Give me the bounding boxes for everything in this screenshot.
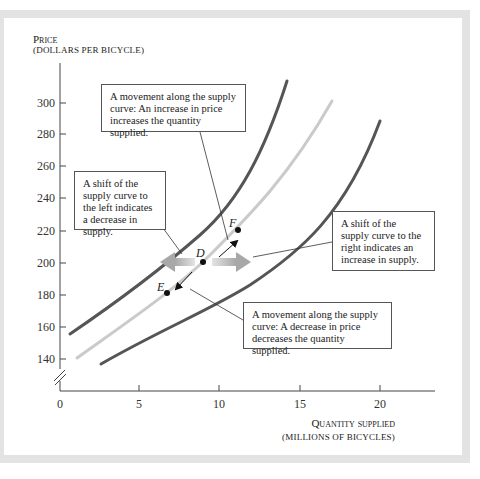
x-tick-label: 5 — [136, 397, 142, 411]
y-axis-label: Price — [33, 33, 144, 45]
leader-top — [200, 132, 228, 240]
x-ticks: 0 5 10 15 20 — [57, 385, 386, 411]
y-tick-label: 280 — [37, 127, 55, 141]
y-tick-label: 260 — [37, 159, 55, 173]
y-tick-label: 180 — [37, 288, 55, 302]
movement-down-arrow-icon — [176, 272, 192, 289]
callout-decrease-supply: A shift of the supply curve to the left … — [74, 171, 166, 230]
y-tick-label: 300 — [37, 96, 55, 110]
callout-decrease-price: A movement along the supply curve: A dec… — [243, 302, 392, 349]
x-axis-title: Quantity supplied (MILLIONS OF BICYCLES) — [282, 417, 395, 442]
x-tick-label: 20 — [374, 397, 386, 411]
point-label-e: E — [156, 280, 165, 294]
y-ticks: 300 280 260 240 220 200 180 160 140 — [37, 96, 66, 366]
x-axis-label: Quantity supplied — [282, 417, 395, 429]
point-e — [164, 290, 170, 296]
x-tick-label: 0 — [57, 397, 63, 411]
y-tick-label: 200 — [37, 256, 55, 270]
callout-increase-supply: A shift of the supply curve to the right… — [332, 211, 435, 271]
callout-increase-price: A movement along the supply curve: An in… — [101, 84, 246, 132]
shift-right-arrow-icon — [212, 252, 251, 272]
y-tick-label: 240 — [37, 191, 55, 205]
x-axis-unit: (MILLIONS OF BICYCLES) — [282, 432, 395, 442]
y-tick-label: 220 — [37, 224, 55, 238]
leader-left — [163, 228, 182, 254]
y-axis-unit: (DOLLARS PER BICYCLE) — [33, 45, 144, 55]
y-axis-title: Price (DOLLARS PER BICYCLE) — [33, 33, 144, 55]
x-tick-label: 10 — [213, 397, 225, 411]
point-label-d: D — [195, 246, 205, 260]
y-tick-label: 160 — [37, 320, 55, 334]
x-tick-label: 15 — [294, 397, 306, 411]
y-tick-label: 140 — [37, 352, 55, 366]
point-label-f: F — [228, 216, 237, 230]
